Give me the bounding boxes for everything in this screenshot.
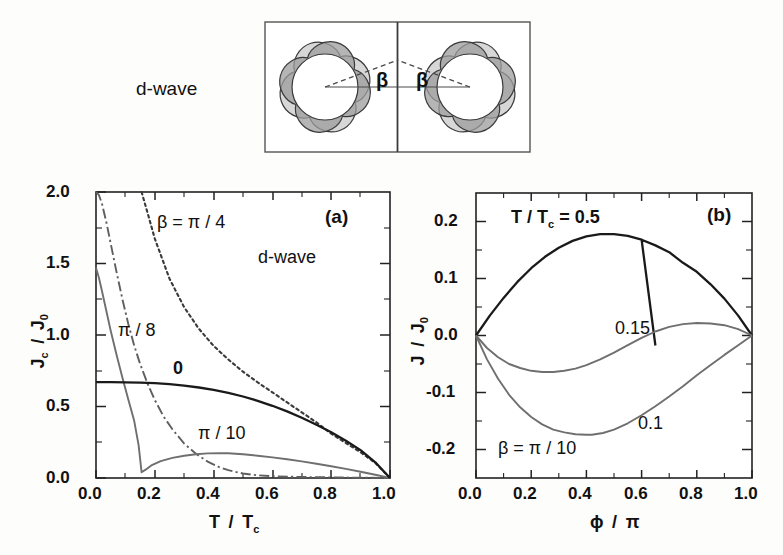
panel-b-label-01: 0.1 (638, 413, 663, 434)
panel-a-label-pi4: β = π / 4 (157, 212, 225, 233)
beta-label-left: β (376, 69, 388, 92)
panel-a-ylabel-den: J (28, 320, 48, 330)
panel-a-xtick-3: 0.6 (255, 484, 279, 504)
panel-a-ytick-1: 0.5 (46, 396, 70, 416)
panel-b-ylabel: J / J0 (408, 296, 431, 386)
panel-a-ylabel-den-sub: 0 (38, 314, 50, 320)
panel-b-ylabel-den: J (408, 323, 428, 333)
panel-a-ylabel-num-sub: c (38, 352, 50, 358)
panel-a-xtick-2: 0.4 (196, 484, 220, 504)
panel-b-ytick-3: -0.1 (426, 382, 455, 402)
panel-a-xtick-5: 1.0 (372, 484, 396, 504)
panel-b-xtick-3: 0.6 (624, 484, 648, 504)
panel-a-xlabel: T / Tc (209, 512, 259, 535)
beta-label-right: β (416, 69, 428, 92)
panel-b-ylabel-den-sub: 0 (418, 317, 430, 323)
panel-b-xlabel-den: π (626, 512, 640, 532)
panel-b-tag: (b) (707, 204, 731, 226)
panel-b-ytick-0: 0.2 (434, 211, 458, 231)
panel-a-ytick-0: 0.0 (46, 468, 70, 488)
top-diagram-wave-label: d-wave (136, 78, 197, 100)
panel-a-ytick-4: 2.0 (46, 182, 70, 202)
top-diagram (265, 22, 530, 152)
panel-b-xlabel: ϕ / π (590, 512, 640, 533)
panel-a-ylabel: Jc / J0 (28, 296, 51, 386)
panel-a-xlabel-slash: / (225, 512, 237, 532)
panel-b-frame (476, 193, 752, 478)
panel-b-ylabel-num: J (408, 355, 428, 365)
panel-a-label-pi8: π / 8 (118, 320, 155, 341)
panel-b-xtick-4: 0.8 (679, 484, 703, 504)
panel-b-xtick-1: 0.2 (513, 484, 537, 504)
panel-b-beta-note: β = π / 10 (498, 438, 576, 459)
panel-a-xtick-4: 0.8 (313, 484, 337, 504)
panel-b-label-t05: T / Tc = 0.5 (511, 207, 600, 230)
panel-b-ytick-4: -0.2 (426, 439, 455, 459)
panel-a-xtick-0: 0.0 (78, 484, 102, 504)
panel-b-xlabel-slash: / (609, 512, 621, 532)
panel-a-ylabel-num: J (28, 359, 48, 369)
panel-a-xtick-1: 0.2 (137, 484, 161, 504)
panel-a-xlabel-den: T (242, 512, 253, 532)
panel-a-tag: (a) (325, 206, 348, 228)
panel-a-wave-label: d-wave (258, 247, 316, 268)
panel-a-ylabel-slash: / (28, 335, 48, 347)
panel-b-ytick-1: 0.1 (434, 268, 458, 288)
panel-a-label-pi10: π / 10 (198, 423, 245, 444)
panel-b-xlabel-num: ϕ (590, 512, 604, 532)
panel-b-label-t05-tail: = 0.5 (554, 207, 600, 227)
panel-b-label-t05-main: T / T (511, 207, 548, 227)
panel-b-ylabel-slash: / (408, 338, 428, 350)
panel-a-label-zero: 0 (173, 358, 183, 379)
panel-a-xlabel-num: T (209, 512, 220, 532)
panel-b-ytick-2: 0.0 (434, 325, 458, 345)
panel-b-xtick-0: 0.0 (458, 484, 482, 504)
panel-b-xtick-5: 1.0 (734, 484, 758, 504)
panel-b-label-015: 0.15 (615, 318, 650, 339)
panel-a-ytick-3: 1.5 (46, 253, 70, 273)
figure-root (0, 0, 783, 555)
panel-b (476, 193, 752, 478)
panel-b-xtick-2: 0.4 (568, 484, 592, 504)
panel-a-xlabel-den-sub: c (253, 523, 259, 535)
